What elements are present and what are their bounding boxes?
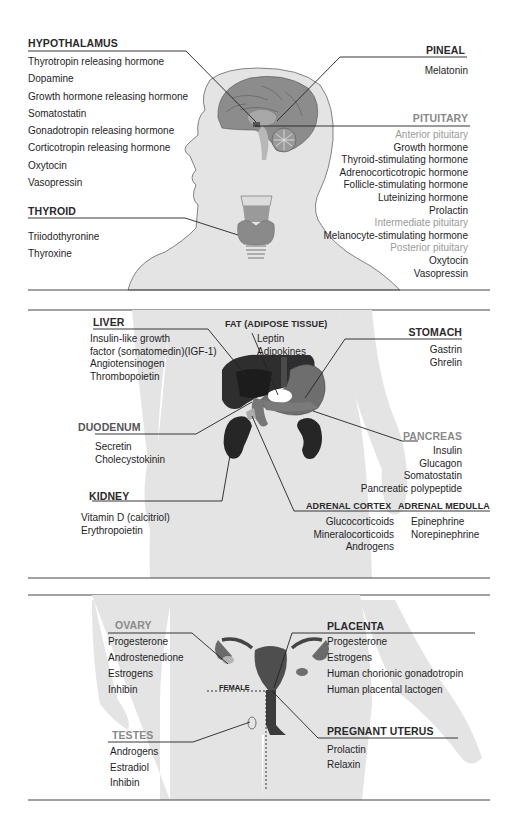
hormone-item: Epinephrine xyxy=(411,516,479,529)
pancreas-hormone-list: Insulin Glucagon Somatostatin Pancreatic… xyxy=(361,445,462,495)
hormone-item: Growth hormone releasing hormone xyxy=(28,88,188,105)
hypothalamus-hormone-list: Thyrotropin releasing hormone Dopamine G… xyxy=(28,53,188,191)
pituitary-title: PITUITARY xyxy=(413,112,468,124)
adrenal-medulla-title: ADRENAL MEDULLA xyxy=(398,501,490,511)
hormone-item: Norepinephrine xyxy=(411,529,479,542)
hormone-item: Androgens xyxy=(110,744,158,760)
hormone-item: Secretin xyxy=(95,441,165,454)
hormone-item: Gastrin xyxy=(430,344,462,357)
hormone-item: Inhibin xyxy=(108,682,184,698)
pancreas-title: PANCREAS xyxy=(403,430,462,442)
pregnant-uterus-title: PREGNANT UTERUS xyxy=(327,725,434,737)
hormone-item: factor (somatomedin)(IGF-1) xyxy=(90,346,217,359)
pituitary-group-label: Intermediate pituitary xyxy=(323,217,468,230)
ovary-title: OVARY xyxy=(115,619,152,631)
hormone-item: Estradiol xyxy=(110,760,158,776)
pituitary-group-label: Anterior pituitary xyxy=(323,129,468,142)
hormone-item: Human chorionic gonadotropin xyxy=(327,666,463,682)
adrenal-cortex-title: ADRENAL CORTEX xyxy=(306,501,391,511)
hormone-item: Prolactin xyxy=(327,742,366,757)
pregnant-uterus-hormone-list: Prolactin Relaxin xyxy=(327,742,366,772)
hormone-item: Triiodothyronine xyxy=(28,228,99,245)
placenta-hormone-list: Progesterone Estrogens Human chorionic g… xyxy=(327,634,463,698)
hormone-item: Estrogens xyxy=(327,650,463,666)
kidney-title: KIDNEY xyxy=(89,490,129,502)
hormone-item: Androgens xyxy=(313,541,394,554)
liver-hormone-list: Insulin-like growth factor (somatomedin)… xyxy=(90,333,217,383)
placenta-title: PLACENTA xyxy=(327,620,384,632)
hormone-item: Vasopressin xyxy=(28,174,188,191)
ovary-hormone-list: Progesterone Androstenedione Estrogens I… xyxy=(108,634,184,698)
hormone-item: Thyroxine xyxy=(28,245,99,262)
hypothalamus-title: HYPOTHALAMUS xyxy=(28,37,118,49)
hormone-item: Luteinizing hormone xyxy=(323,192,468,205)
hormone-item: Growth hormone xyxy=(323,142,468,155)
female-label: FEMALE xyxy=(219,683,250,692)
testes-title: TESTES xyxy=(112,729,153,741)
hormone-item: Thyroid-stimulating hormone xyxy=(323,154,468,167)
hormone-item: Angiotensinogen xyxy=(90,358,217,371)
hormone-item: Insulin-like growth xyxy=(90,333,217,346)
pituitary-group-label: Posterior pituitary xyxy=(323,242,468,255)
hormone-item: Follicle-stimulating hormone xyxy=(323,179,468,192)
hormone-item: Relaxin xyxy=(327,757,366,772)
hormone-item: Progesterone xyxy=(327,634,463,650)
hormone-item: Somatostatin xyxy=(361,470,462,483)
hormone-item: Vitamin D (calcitriol) xyxy=(81,512,170,525)
hormone-item: Oxytocin xyxy=(323,255,468,268)
hormone-item: Inhibin xyxy=(110,775,158,791)
thyroid-title: THYROID xyxy=(28,205,76,217)
duodenum-title: DUODENUM xyxy=(78,421,141,433)
hormone-item: Pancreatic polypeptide xyxy=(361,483,462,496)
hormone-item: Somatostatin xyxy=(28,105,188,122)
hormone-item: Insulin xyxy=(361,445,462,458)
hormone-item: Androstenedione xyxy=(108,650,184,666)
adrenal-medulla-hormone-list: Epinephrine Norepinephrine xyxy=(411,516,479,541)
hormone-item: Cholecystokinin xyxy=(95,454,165,467)
testes-hormone-list: Androgens Estradiol Inhibin xyxy=(110,744,158,791)
hormone-item: Leptin xyxy=(257,333,306,346)
hormone-item: Oxytocin xyxy=(28,157,188,174)
hormone-item: Thrombopoietin xyxy=(90,371,217,384)
kidney-hormone-list: Vitamin D (calcitriol) Erythropoietin xyxy=(81,512,170,537)
pineal-title: PINEAL xyxy=(426,44,465,56)
hormone-item: Adipokines xyxy=(257,346,306,359)
hormone-item: Vasopressin xyxy=(323,268,468,281)
hormone-item: Ghrelin xyxy=(430,357,462,370)
hormone-item: Erythropoietin xyxy=(81,525,170,538)
hormone-item: Gonadotropin releasing hormone xyxy=(28,122,188,139)
hormone-item: Adrenocorticotropic hormone xyxy=(323,167,468,180)
fat-hormone-list: Leptin Adipokines xyxy=(257,333,306,358)
hormone-item: Glucocorticoids xyxy=(313,516,394,529)
pituitary-hormone-list: Anterior pituitary Growth hormone Thyroi… xyxy=(323,129,468,280)
stomach-title: STOMACH xyxy=(408,326,462,338)
duodenum-hormone-list: Secretin Cholecystokinin xyxy=(95,441,165,466)
hormone-item: Progesterone xyxy=(108,634,184,650)
hormone-item: Prolactin xyxy=(323,205,468,218)
hormone-item: Estrogens xyxy=(108,666,184,682)
hormone-item: Human placental lactogen xyxy=(327,682,463,698)
hormone-item: Glucagon xyxy=(361,458,462,471)
hormone-item: Corticotropin releasing hormone xyxy=(28,139,188,156)
hormone-item: Melanocyte-stimulating hormone xyxy=(323,230,468,243)
hormone-item: Thyrotropin releasing hormone xyxy=(28,53,188,70)
liver-title: LIVER xyxy=(93,316,124,328)
hormone-item: Dopamine xyxy=(28,70,188,87)
stomach-hormone-list: Gastrin Ghrelin xyxy=(430,344,462,369)
hormone-item: Mineralocorticoids xyxy=(313,529,394,542)
hormone-item: Melatonin xyxy=(425,62,468,79)
adrenal-cortex-hormone-list: Glucocorticoids Mineralocorticoids Andro… xyxy=(313,516,394,554)
thyroid-hormone-list: Triiodothyronine Thyroxine xyxy=(28,228,99,263)
fat-title: FAT (ADIPOSE TISSUE) xyxy=(225,319,327,329)
